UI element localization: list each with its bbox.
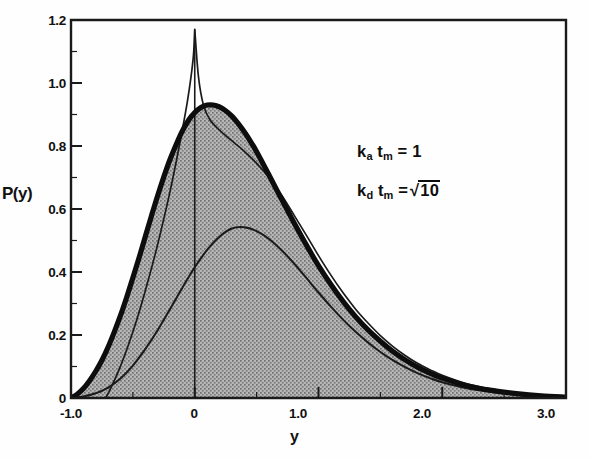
figure-root: P(y) y 1.2 1.0 0.8 0.6 0.4 0.2 0 -1.0 0 … [0,0,589,459]
plot-canvas [0,0,589,459]
y-major-ticks [71,83,82,335]
shaded-area-group [71,105,566,398]
distribution-fill-area [71,105,566,398]
